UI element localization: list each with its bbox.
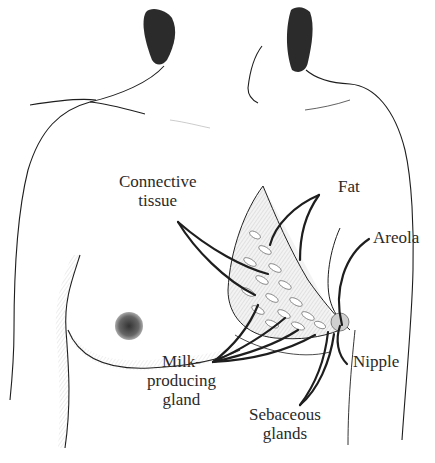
- hair-left: [144, 9, 176, 64]
- label-sebaceous-line2: glands: [249, 424, 321, 443]
- label-fat: Fat: [338, 177, 360, 196]
- label-milk-line3: gland: [147, 390, 216, 409]
- left-areola: [115, 312, 143, 340]
- label-sebaceous-glands: Sebaceous glands: [249, 405, 321, 443]
- label-milk-line2: producing: [147, 371, 216, 390]
- label-sebaceous-line1: Sebaceous: [249, 405, 321, 424]
- hair-right: [287, 7, 313, 72]
- body-illustration: [0, 0, 435, 463]
- label-nipple: Nipple: [353, 352, 399, 371]
- left-side-contour: [56, 255, 80, 448]
- label-connective-line1: Connective: [119, 172, 196, 191]
- label-milk-line1: Milk-: [147, 352, 216, 371]
- label-connective-line2: tissue: [119, 191, 196, 210]
- label-connective-tissue: Connective tissue: [119, 172, 196, 210]
- anatomy-diagram: Connective tissue Fat Areola Nipple Milk…: [0, 0, 435, 463]
- label-milk-producing-gland: Milk- producing gland: [147, 352, 216, 409]
- label-areola: Areola: [373, 228, 419, 247]
